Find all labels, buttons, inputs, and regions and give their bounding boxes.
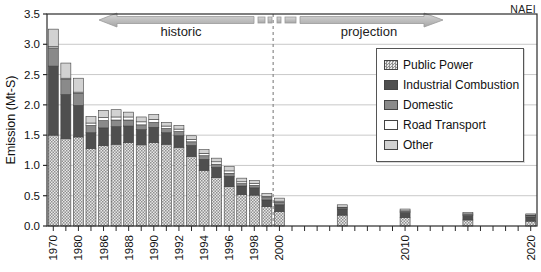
- bar-segment-industrial-combustion: [526, 217, 536, 221]
- projection-arrow-dash: [285, 17, 296, 23]
- bar-segment-industrial-combustion: [161, 133, 171, 145]
- other-swatch-icon: [384, 140, 398, 150]
- bar-1986: [99, 110, 109, 226]
- legend-item-public-power: Public Power: [384, 55, 516, 75]
- x-tick-label: 1990: [148, 235, 160, 261]
- bar-segment-industrial-combustion: [86, 133, 96, 149]
- bar-1970: [48, 29, 58, 226]
- legend-label: Other: [403, 138, 433, 152]
- bar-segment-domestic: [199, 156, 209, 160]
- bar-segment-road-transport: [161, 126, 171, 128]
- bar-segment-public-power: [161, 144, 171, 226]
- y-tick-label: 1.0: [24, 159, 40, 171]
- legend-item-other: Other: [384, 135, 516, 155]
- public-power-swatch-icon: [384, 60, 398, 70]
- y-tick-label: 0.5: [24, 190, 40, 202]
- x-tick-label: 2010: [399, 235, 411, 261]
- bar-1980: [73, 78, 83, 226]
- bar-segment-public-power: [463, 220, 473, 226]
- historic-arrow-dash: [258, 17, 265, 23]
- x-tick-label: 1988: [123, 235, 135, 261]
- bar-segment-other: [48, 29, 58, 47]
- bar-segment-road-transport: [149, 119, 159, 122]
- bar-segment-other: [124, 112, 134, 117]
- bar-2020: [526, 214, 536, 226]
- bar-2010: [400, 209, 410, 226]
- bar-segment-road-transport: [174, 129, 184, 131]
- bar-segment-other: [99, 110, 109, 117]
- bar-segment-industrial-combustion: [73, 105, 83, 136]
- bar-segment-other: [237, 178, 247, 182]
- bar-1990: [149, 115, 159, 226]
- bar-segment-domestic: [99, 121, 109, 128]
- bar-segment-public-power: [149, 142, 159, 226]
- legend-label: Public Power: [403, 58, 473, 72]
- bar-segment-public-power: [73, 137, 83, 226]
- bar-segment-other: [186, 136, 196, 140]
- bar-segment-domestic: [237, 184, 247, 186]
- bar-segment-industrial-combustion: [149, 127, 159, 142]
- legend-label: Road Transport: [403, 118, 486, 132]
- projection-arrow-dash: [277, 17, 281, 23]
- bar-segment-public-power: [186, 156, 196, 226]
- bar-segment-industrial-combustion: [124, 126, 134, 142]
- bar-segment-public-power: [274, 211, 284, 226]
- bar-segment-other: [262, 193, 272, 196]
- bar-segment-domestic: [136, 125, 146, 130]
- bar-1995: [212, 158, 222, 226]
- legend-label: Industrial Combustion: [403, 78, 519, 92]
- y-tick-label: 3.0: [24, 38, 40, 50]
- bar-1998: [249, 181, 259, 226]
- bar-1985: [86, 116, 96, 226]
- bar-segment-domestic: [124, 120, 134, 126]
- bar-segment-road-transport: [136, 122, 146, 125]
- legend-item-industrial-combustion: Industrial Combustion: [384, 75, 516, 95]
- bar-segment-public-power: [174, 147, 184, 226]
- bar-segment-domestic: [224, 173, 234, 176]
- bar-1987: [111, 110, 121, 226]
- bar-1992: [174, 125, 184, 226]
- naei-source-label: NAEI: [510, 3, 536, 15]
- bar-segment-industrial-combustion: [99, 128, 109, 146]
- legend: Public Power Industrial Combustion Domes…: [376, 48, 524, 162]
- bar-segment-public-power: [262, 207, 272, 226]
- bar-segment-public-power: [337, 215, 347, 226]
- x-tick-label: 1994: [198, 234, 210, 260]
- bar-segment-domestic: [161, 128, 171, 132]
- y-tick-label: 0.0: [24, 220, 40, 232]
- bar-segment-industrial-combustion: [337, 209, 347, 215]
- bar-segment-domestic: [212, 164, 222, 167]
- bar-segment-industrial-combustion: [274, 205, 284, 212]
- y-tick-label: 2.5: [24, 69, 40, 81]
- x-tick-label: 1998: [248, 235, 260, 261]
- bar-segment-industrial-combustion: [249, 188, 259, 195]
- y-tick-label: 2.0: [24, 99, 40, 111]
- x-tick-label: 2000: [273, 235, 285, 261]
- x-tick-label: 1970: [47, 235, 59, 261]
- bar-segment-other: [526, 214, 536, 215]
- x-tick-label: 1996: [223, 235, 235, 261]
- bar-segment-domestic: [61, 79, 71, 94]
- historic-arrow-label: historic: [160, 24, 201, 39]
- road-transport-swatch-icon: [384, 120, 398, 130]
- domestic-swatch-icon: [384, 100, 398, 110]
- bar-2000: [274, 198, 284, 226]
- bar-segment-domestic: [73, 93, 83, 105]
- bar-segment-other: [400, 209, 410, 211]
- bar-1997: [237, 178, 247, 226]
- bar-segment-industrial-combustion: [136, 130, 146, 145]
- bar-segment-industrial-combustion: [174, 136, 184, 148]
- bar-segment-other: [86, 116, 96, 123]
- bar-segment-industrial-combustion: [186, 145, 196, 156]
- bar-segment-other: [111, 110, 121, 117]
- bar-segment-public-power: [526, 221, 536, 226]
- bar-segment-public-power: [136, 145, 146, 226]
- bar-segment-other: [61, 63, 71, 78]
- bar-segment-industrial-combustion: [237, 186, 247, 194]
- x-tick-label: 1992: [173, 235, 185, 261]
- bar-segment-public-power: [124, 142, 134, 226]
- y-tick-label: 3.5: [24, 8, 40, 20]
- bar-segment-other: [199, 150, 209, 154]
- bar-1975: [61, 63, 71, 226]
- bar-segment-industrial-combustion: [48, 66, 58, 135]
